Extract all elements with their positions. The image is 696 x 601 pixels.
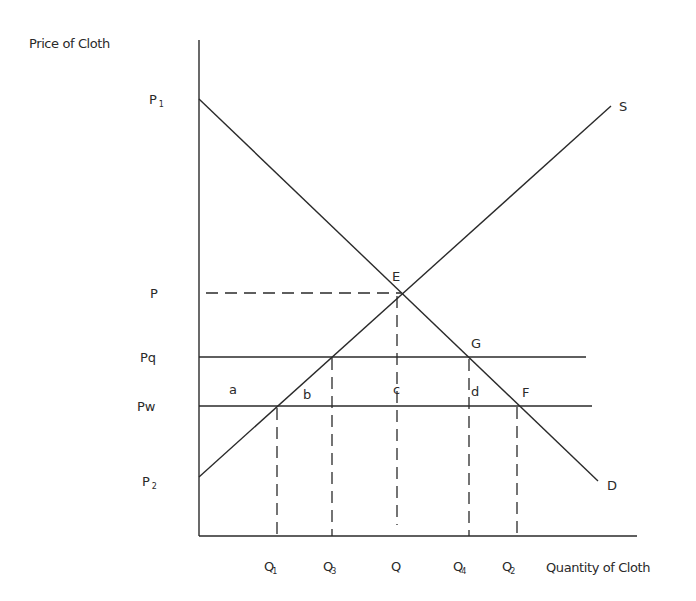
q4-label: Q4 <box>453 559 466 576</box>
q1-label: Q1 <box>264 559 277 576</box>
supply-demand-diagram: Price of Cloth Quantity of Cloth P1 P Pq… <box>0 0 696 601</box>
p-label: P <box>150 286 158 301</box>
demand-label: D <box>607 478 617 493</box>
y-axis-title: Price of Cloth <box>29 36 110 51</box>
point-g-label: G <box>471 336 481 351</box>
p2-label: P2 <box>142 474 157 491</box>
q3-label: Q3 <box>323 559 336 576</box>
supply-curve <box>199 106 611 477</box>
p1-label: P1 <box>149 92 164 109</box>
point-f-label: F <box>522 385 529 400</box>
area-c-label: c <box>393 382 400 397</box>
x-axis-title: Quantity of Cloth <box>546 560 650 575</box>
point-e-label: E <box>392 269 400 284</box>
q2-label: Q2 <box>502 559 515 576</box>
pw-label: Pw <box>137 399 156 414</box>
supply-label: S <box>619 99 627 114</box>
pq-label: Pq <box>140 350 156 365</box>
area-a-label: a <box>229 382 237 397</box>
q-label: Q <box>391 559 401 574</box>
area-d-label: d <box>471 384 479 399</box>
area-b-label: b <box>303 387 311 402</box>
